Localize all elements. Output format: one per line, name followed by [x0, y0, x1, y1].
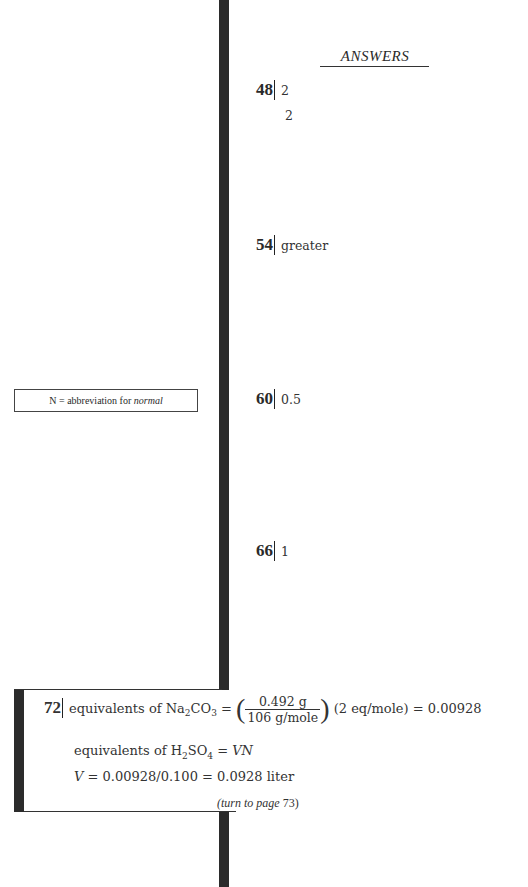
frame-top-rule	[14, 689, 222, 690]
turn-to-page-note: (turn to page 73)	[217, 796, 299, 811]
frame-72-line3: V = 0.00928/0.100 = 0.0928 liter	[74, 769, 294, 784]
variable: VN	[232, 743, 253, 758]
side-note-text: N = abbreviation for	[49, 395, 134, 406]
separator	[274, 541, 275, 561]
frame-number: 72	[44, 698, 61, 718]
fraction: 0.492 g106 g/mole	[245, 694, 320, 725]
answer-60: 600.5	[256, 389, 301, 409]
frame-bottom-rule	[24, 811, 236, 812]
equation-text: SO	[188, 743, 208, 758]
numerator: 0.492 g	[245, 694, 320, 710]
equation-text: equivalents of H	[74, 743, 182, 758]
equals: =	[217, 701, 236, 716]
answer-54: 54greater	[256, 235, 328, 255]
footer-close: )	[295, 796, 299, 810]
separator	[62, 698, 63, 718]
answer-value: 1	[281, 544, 289, 559]
heading-underline	[320, 66, 429, 67]
frame-number: 66	[256, 541, 273, 561]
equation-text: equivalents of Na	[69, 701, 185, 716]
frame-number: 54	[256, 235, 273, 255]
equation-text: CO	[191, 701, 212, 716]
separator	[274, 235, 275, 255]
equation-text: (2 eq/mole) = 0.00928	[334, 701, 482, 716]
separator	[274, 80, 275, 100]
separator	[274, 389, 275, 409]
page-number: 73	[283, 796, 295, 810]
answer-48: 482	[256, 80, 289, 100]
frame-72-line1: 72equivalents of Na2CO3 = (0.492 g106 g/…	[44, 693, 482, 725]
answer-value: 0.5	[281, 392, 301, 407]
frame-number: 48	[256, 80, 273, 100]
left-paren: (	[236, 693, 245, 724]
variable: V	[74, 769, 83, 784]
answer-48-line2: 2	[285, 108, 293, 123]
frame-divider-bar-upper	[219, 0, 229, 690]
answer-value: 2	[285, 108, 293, 123]
denominator: 106 g/mole	[245, 710, 320, 725]
frame-divider-bar-lower	[219, 812, 229, 887]
frame-left-bar	[14, 689, 24, 812]
side-note-box: N = abbreviation for normal	[14, 389, 198, 412]
answer-66: 661	[256, 541, 289, 561]
answer-value: 2	[281, 83, 289, 98]
equation-text: = 0.00928/0.100 = 0.0928 liter	[83, 769, 294, 784]
frame-number: 60	[256, 389, 273, 409]
answer-value: greater	[281, 238, 328, 253]
answers-heading: ANSWERS	[320, 48, 430, 65]
right-paren: )	[320, 693, 329, 724]
side-note-term: normal	[134, 395, 163, 406]
equals: =	[213, 743, 232, 758]
frame-72-line2: equivalents of H2SO4 = VN	[74, 743, 253, 761]
footer-text: (turn to page	[217, 796, 283, 810]
